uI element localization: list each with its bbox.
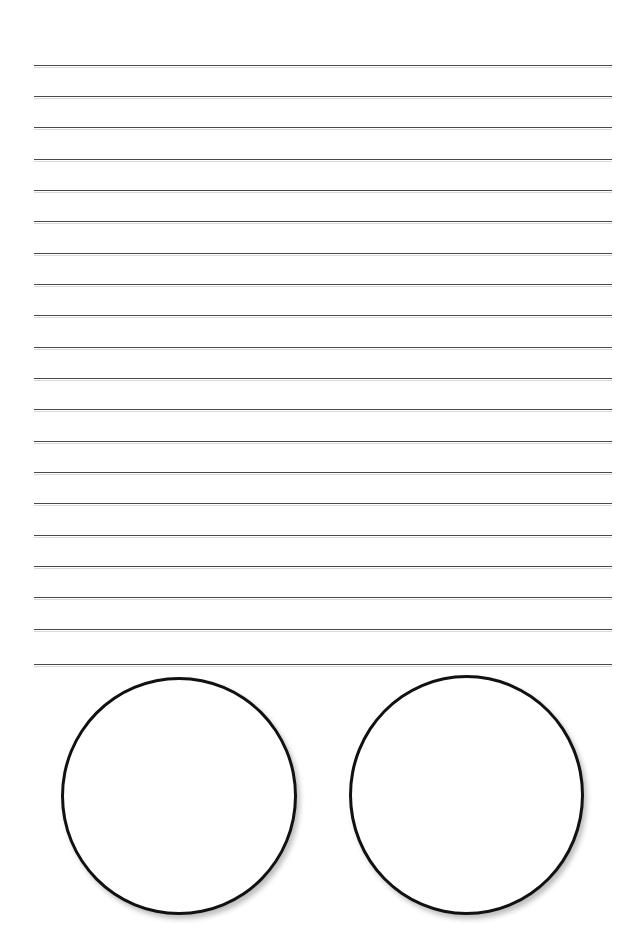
right-circle (349, 675, 584, 915)
left-circle (61, 677, 297, 915)
worksheet-page (0, 0, 641, 944)
circles-group (0, 0, 641, 944)
